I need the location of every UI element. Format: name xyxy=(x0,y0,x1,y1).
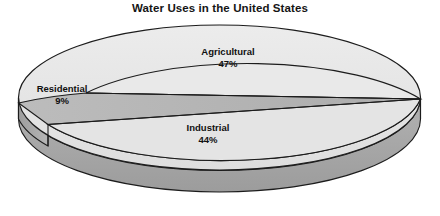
pie-chart: Water Uses in the United States xyxy=(0,0,440,216)
pie-chart-graphic xyxy=(0,0,440,216)
